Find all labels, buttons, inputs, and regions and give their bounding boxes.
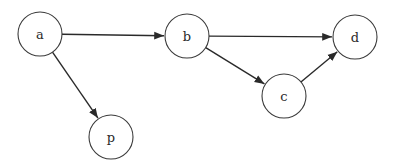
edge-c-d xyxy=(301,52,337,82)
node-label: c xyxy=(280,89,287,104)
node-label: d xyxy=(351,30,359,45)
directed-graph: abdcp xyxy=(0,0,394,167)
node-d: d xyxy=(333,15,377,59)
node-a: a xyxy=(18,12,62,56)
node-b: b xyxy=(165,14,209,58)
edge-a-p xyxy=(52,52,97,118)
node-c: c xyxy=(262,74,306,118)
node-label: a xyxy=(36,27,44,42)
node-p: p xyxy=(89,115,133,159)
node-label: p xyxy=(107,130,115,145)
edge-b-c xyxy=(206,48,265,84)
edge-a-b xyxy=(62,34,164,35)
node-label: b xyxy=(183,29,191,44)
edge-b-d xyxy=(209,36,332,37)
